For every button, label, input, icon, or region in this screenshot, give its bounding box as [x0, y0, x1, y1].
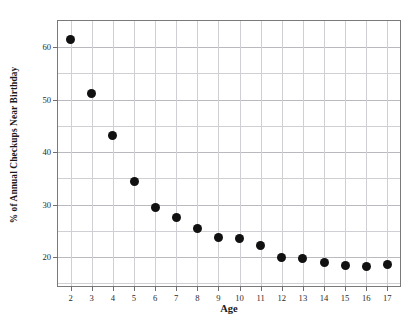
gridline-vertical [197, 21, 198, 286]
x-axis-tick [282, 286, 283, 291]
x-axis-tick [240, 286, 241, 291]
x-axis-tick-label: 8 [195, 293, 199, 303]
y-axis-tick [53, 100, 58, 101]
gridline-vertical [282, 21, 283, 286]
plot-area: 2030405060234567891011121314151617 [57, 20, 401, 287]
gridline-vertical [303, 21, 304, 286]
data-point [298, 254, 307, 263]
gridline-vertical [113, 21, 114, 286]
x-axis-tick [261, 286, 262, 291]
x-axis-tick [366, 286, 367, 291]
data-point [256, 241, 265, 250]
x-axis-tick-label: 2 [69, 293, 73, 303]
x-axis-tick [176, 286, 177, 291]
data-point [193, 224, 202, 233]
x-axis-tick-label: 13 [299, 293, 308, 303]
gridline-vertical [176, 21, 177, 286]
gridline-horizontal [58, 257, 400, 258]
gridline-horizontal-minor [58, 73, 400, 74]
x-axis-tick [345, 286, 346, 291]
x-axis-tick-label: 4 [111, 293, 115, 303]
y-axis-tick [53, 152, 58, 153]
gridline-vertical [218, 21, 219, 286]
x-axis-tick-label: 9 [216, 293, 220, 303]
data-point [277, 253, 286, 262]
x-axis-title: Age [57, 303, 401, 314]
data-point [87, 89, 96, 98]
x-axis-tick-label: 6 [153, 293, 157, 303]
scatter-chart-figure: % of Annual Checkups Near Birthday 20304… [0, 0, 420, 329]
gridline-vertical [240, 21, 241, 286]
x-axis-tick-label: 16 [362, 293, 371, 303]
x-axis-tick-label: 14 [320, 293, 329, 303]
data-point [383, 260, 392, 269]
x-axis-tick-label: 17 [383, 293, 392, 303]
gridline-vertical [345, 21, 346, 286]
x-axis-tick-label: 12 [277, 293, 286, 303]
gridline-horizontal [58, 47, 400, 48]
data-point [108, 131, 117, 140]
data-point [151, 203, 160, 212]
data-point [320, 258, 329, 267]
x-axis-tick-label: 10 [235, 293, 244, 303]
x-axis-tick-label: 5 [132, 293, 136, 303]
gridline-horizontal-minor [58, 283, 400, 284]
x-axis-tick [218, 286, 219, 291]
y-axis-tick [53, 205, 58, 206]
x-axis-tick [387, 286, 388, 291]
y-axis-tick-label: 20 [42, 252, 51, 262]
gridline-horizontal-minor [58, 178, 400, 179]
x-axis-tick [155, 286, 156, 291]
gridline-vertical [324, 21, 325, 286]
gridline-vertical [134, 21, 135, 286]
gridline-horizontal [58, 205, 400, 206]
x-axis-tick [303, 286, 304, 291]
y-axis-tick-label: 40 [42, 147, 51, 157]
y-axis-title-text: % of Annual Checkups Near Birthday [9, 67, 19, 224]
y-axis-title: % of Annual Checkups Near Birthday [0, 0, 28, 290]
x-axis-tick [113, 286, 114, 291]
gridline-horizontal [58, 100, 400, 101]
gridline-horizontal-minor [58, 231, 400, 232]
data-point [362, 262, 371, 271]
x-axis-tick-label: 7 [174, 293, 178, 303]
x-axis-tick-label: 3 [90, 293, 94, 303]
data-point [172, 213, 181, 222]
x-axis-tick [324, 286, 325, 291]
y-axis-tick-label: 30 [42, 200, 51, 210]
gridline-vertical [92, 21, 93, 286]
x-axis-tick [197, 286, 198, 291]
data-point [214, 233, 223, 242]
gridline-vertical [71, 21, 72, 286]
y-axis-tick [53, 257, 58, 258]
gridline-vertical [366, 21, 367, 286]
x-axis-tick-label: 15 [341, 293, 350, 303]
data-point [341, 261, 350, 270]
x-axis-tick [134, 286, 135, 291]
data-point [66, 35, 75, 44]
x-axis-tick [71, 286, 72, 291]
y-axis-tick-label: 50 [42, 95, 51, 105]
gridline-vertical [387, 21, 388, 286]
data-point [130, 177, 139, 186]
y-axis-tick-label: 60 [42, 42, 51, 52]
x-axis-tick [92, 286, 93, 291]
y-axis-tick [53, 47, 58, 48]
gridline-horizontal [58, 152, 400, 153]
data-point [235, 234, 244, 243]
gridline-vertical [155, 21, 156, 286]
x-axis-tick-label: 11 [257, 293, 265, 303]
gridline-horizontal-minor [58, 126, 400, 127]
